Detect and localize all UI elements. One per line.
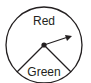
spinner-diagram: Red Green [0,0,91,83]
section-label-red: Red [33,14,55,28]
pointer-arrow-head [65,35,72,41]
pointer-arrow-shaft [44,37,68,45]
section-label-green: Green [27,65,60,79]
pointer-pivot [41,42,46,47]
